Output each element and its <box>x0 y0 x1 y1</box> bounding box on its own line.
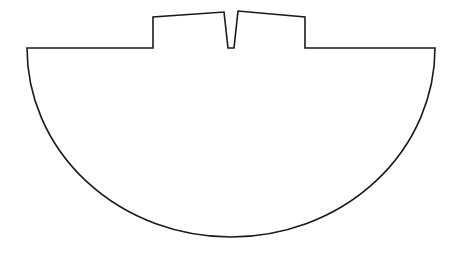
half-ellipse-with-tabs-outline <box>27 11 435 237</box>
diagram-canvas <box>0 0 460 254</box>
